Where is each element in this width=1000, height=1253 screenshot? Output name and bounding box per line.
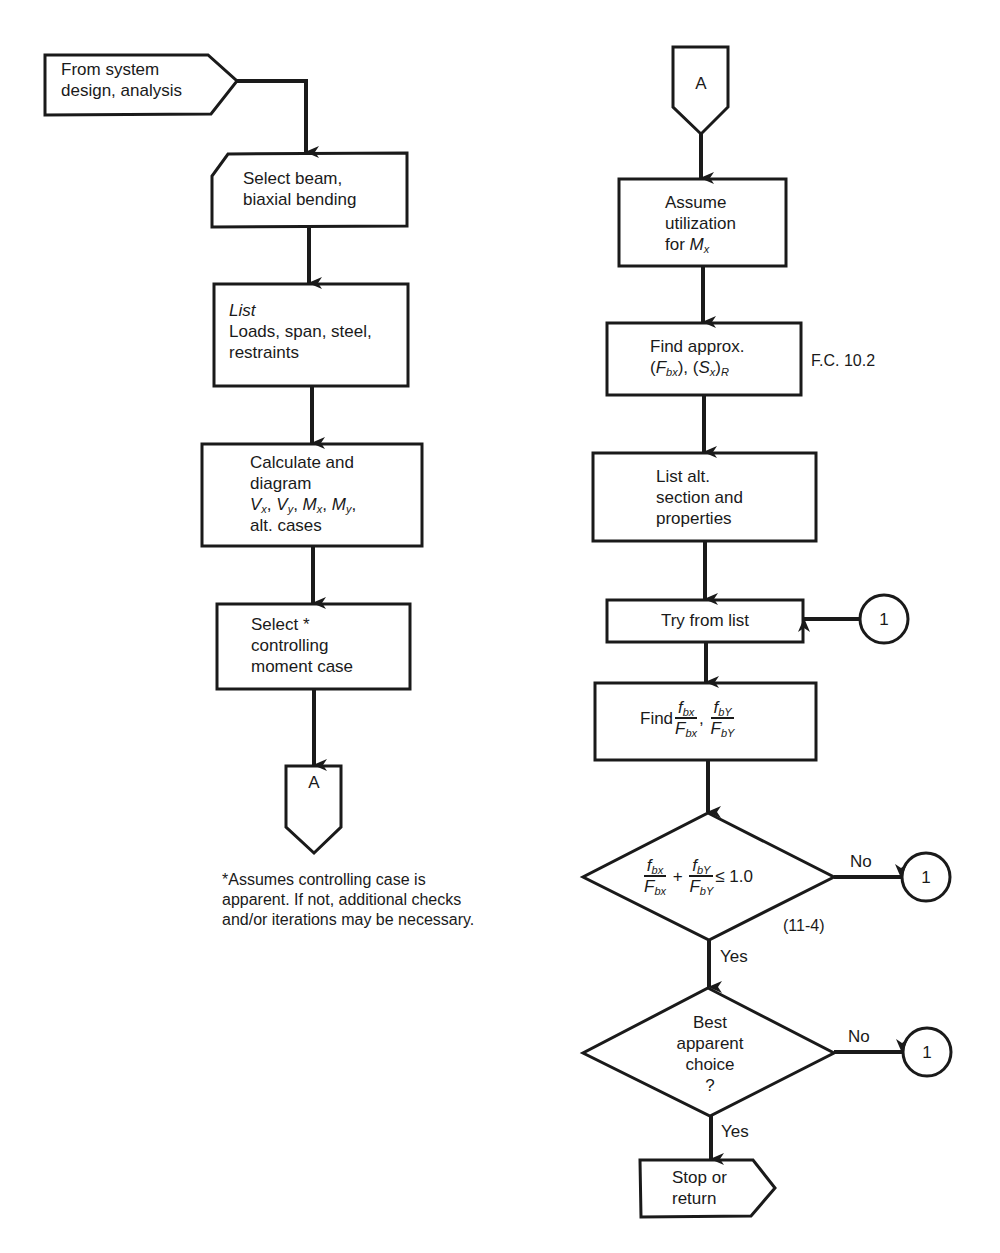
list-alt-label: List alt. section and properties [656, 466, 743, 529]
shear-moment-vars: Vx, Vy, Mx, My, [250, 494, 356, 515]
decision-interaction-yes-label: Yes [720, 946, 748, 967]
decision-interaction-label: fbxFbx + fbYFbY≤ 1.0 [642, 856, 753, 897]
try-list-label: Try from list [607, 610, 803, 631]
figure-reference-note: F.C. 10.2 [811, 350, 875, 371]
find-ratios-label: FindfbxFbx, fbYFbY [640, 698, 736, 739]
select-case-label: Select * controlling moment case [251, 614, 353, 677]
decision-best-no-label: No [848, 1026, 870, 1047]
find-approx-label: Find approx. (Fbx), (Sx)R [650, 336, 745, 378]
connector-1-try-label: 1 [860, 609, 908, 630]
connector-a-in-label: A [673, 73, 729, 94]
list-box-label: List Loads, span, steel, restraints [229, 300, 372, 363]
flowchart-shapes [0, 0, 1000, 1253]
end-terminal-label: Stop or return [672, 1167, 727, 1209]
decision-interaction-no-label: No [850, 851, 872, 872]
start-terminal-label: From system design, analysis [61, 59, 182, 101]
decision-best-yes-label: Yes [721, 1121, 749, 1142]
connector-a-out-label: A [286, 772, 342, 793]
calculate-box-label: Calculate and diagram Vx, Vy, Mx, My, al… [250, 452, 356, 536]
footnote: *Assumes controlling case is apparent. I… [222, 870, 474, 930]
arrow-start-to-select [237, 81, 306, 152]
equation-reference: (11-4) [783, 915, 825, 936]
connector-1-no1-label: 1 [902, 867, 950, 888]
assume-box-label: Assume utilization for Mx [665, 192, 736, 255]
select-beam-label: Select beam, biaxial bending [243, 168, 356, 210]
connector-1-no2-label: 1 [903, 1042, 951, 1063]
decision-best-label: Best apparent choice ? [648, 1012, 772, 1096]
